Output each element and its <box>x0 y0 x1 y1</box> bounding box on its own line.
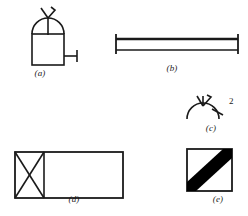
figure-a-caption: (a) <box>18 68 62 78</box>
figure-c-number-label: 2 <box>229 96 234 106</box>
figure-c-caption: (c) <box>189 123 233 133</box>
figure-d <box>14 151 124 199</box>
figure-d-outline <box>15 152 123 198</box>
figure-e-caption: (e) <box>196 194 240 204</box>
figure-e <box>186 148 234 193</box>
figure-a <box>22 4 84 68</box>
figure-a-body <box>32 34 64 65</box>
figure-b <box>114 33 240 57</box>
figure-plate: (a) (b) 2 (c) <box>0 0 248 216</box>
figure-d-caption: (d) <box>52 194 96 204</box>
figure-a-antenna-barb-right <box>48 7 55 18</box>
figure-b-caption: (b) <box>150 63 194 73</box>
figure-a-antenna-barb-left <box>41 8 48 18</box>
figure-c <box>183 95 233 123</box>
